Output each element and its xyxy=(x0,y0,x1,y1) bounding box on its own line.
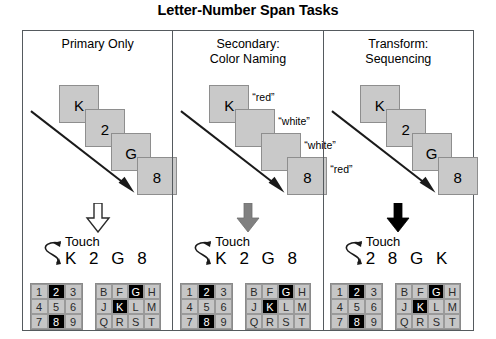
key-f[interactable]: F xyxy=(262,284,278,299)
key-2[interactable]: 2 xyxy=(348,284,365,299)
touch-label: Touch xyxy=(366,234,401,249)
key-1[interactable]: 1 xyxy=(31,284,48,299)
task-panel-1: Primary OnlyK2G8TouchK 2 G 8123456789BFG… xyxy=(23,31,172,330)
key-m[interactable]: M xyxy=(294,299,310,314)
key-6[interactable]: 6 xyxy=(65,299,82,314)
number-keypad[interactable]: 123456789 xyxy=(30,283,83,330)
key-b[interactable]: B xyxy=(396,284,412,299)
key-4[interactable]: 4 xyxy=(31,299,48,314)
letter-keypad[interactable]: BFGHJKLMQRST xyxy=(245,283,311,330)
panel-title: Primary Only xyxy=(23,37,172,52)
key-7[interactable]: 7 xyxy=(181,314,198,329)
stimulus-card-cascade: K2G8 xyxy=(23,83,172,198)
key-q[interactable]: Q xyxy=(246,314,262,329)
key-5[interactable]: 5 xyxy=(348,299,365,314)
stimulus-card: 8 xyxy=(137,157,177,195)
key-3[interactable]: 3 xyxy=(215,284,232,299)
key-3[interactable]: 3 xyxy=(365,284,382,299)
key-g[interactable]: G xyxy=(278,284,294,299)
key-1[interactable]: 1 xyxy=(181,284,198,299)
down-arrow-gray xyxy=(235,203,261,233)
touch-response-block: TouchK 2 G 8 xyxy=(173,233,322,283)
touch-sequence: K 2 G 8 xyxy=(215,249,301,269)
key-7[interactable]: 7 xyxy=(331,314,348,329)
key-g[interactable]: G xyxy=(428,284,444,299)
touch-sequence: 2 8 G K xyxy=(366,249,452,269)
key-9[interactable]: 9 xyxy=(65,314,82,329)
key-l[interactable]: L xyxy=(428,299,444,314)
key-2[interactable]: 2 xyxy=(198,284,215,299)
key-t[interactable]: T xyxy=(144,314,160,329)
key-k[interactable]: K xyxy=(262,299,278,314)
key-2[interactable]: 2 xyxy=(48,284,65,299)
down-arrow-black xyxy=(385,203,411,233)
key-r[interactable]: R xyxy=(262,314,278,329)
panel-title: Secondary: Color Naming xyxy=(173,37,322,66)
key-g[interactable]: G xyxy=(128,284,144,299)
key-t[interactable]: T xyxy=(294,314,310,329)
key-5[interactable]: 5 xyxy=(198,299,215,314)
page-title: Letter-Number Span Tasks xyxy=(0,2,496,18)
response-keypads: 123456789BFGHJKLMQRST xyxy=(330,283,466,330)
touch-label: Touch xyxy=(65,234,100,249)
stimulus-card-cascade: K“red”“white”“white”8“red” xyxy=(173,83,322,198)
key-s[interactable]: S xyxy=(128,314,144,329)
key-l[interactable]: L xyxy=(278,299,294,314)
number-keypad[interactable]: 123456789 xyxy=(330,283,383,330)
key-m[interactable]: M xyxy=(444,299,460,314)
key-8[interactable]: 8 xyxy=(48,314,65,329)
letter-keypad[interactable]: BFGHJKLMQRST xyxy=(395,283,461,330)
key-f[interactable]: F xyxy=(112,284,128,299)
key-m[interactable]: M xyxy=(144,299,160,314)
swipe-curve-icon xyxy=(41,239,63,267)
letter-keypad[interactable]: BFGHJKLMQRST xyxy=(95,283,161,330)
key-s[interactable]: S xyxy=(278,314,294,329)
key-t[interactable]: T xyxy=(444,314,460,329)
spoken-color-label: “red” xyxy=(252,91,274,103)
task-panel-2: Secondary: Color NamingK“red”“white”“whi… xyxy=(172,31,322,330)
key-6[interactable]: 6 xyxy=(215,299,232,314)
touch-label: Touch xyxy=(215,234,250,249)
key-q[interactable]: Q xyxy=(96,314,112,329)
key-q[interactable]: Q xyxy=(396,314,412,329)
spoken-color-label: “white” xyxy=(278,115,310,127)
key-s[interactable]: S xyxy=(428,314,444,329)
key-5[interactable]: 5 xyxy=(48,299,65,314)
number-keypad[interactable]: 123456789 xyxy=(180,283,233,330)
swipe-curve-icon xyxy=(191,239,213,267)
key-4[interactable]: 4 xyxy=(181,299,198,314)
touch-response-block: TouchK 2 G 8 xyxy=(23,233,172,283)
stimulus-card-cascade: K2G8 xyxy=(324,83,473,198)
key-6[interactable]: 6 xyxy=(365,299,382,314)
panel-title: Transform: Sequencing xyxy=(324,37,473,66)
key-9[interactable]: 9 xyxy=(365,314,382,329)
key-8[interactable]: 8 xyxy=(348,314,365,329)
key-h[interactable]: H xyxy=(294,284,310,299)
key-j[interactable]: J xyxy=(246,299,262,314)
key-j[interactable]: J xyxy=(396,299,412,314)
key-k[interactable]: K xyxy=(112,299,128,314)
key-r[interactable]: R xyxy=(112,314,128,329)
swipe-curve-icon xyxy=(342,239,364,267)
key-b[interactable]: B xyxy=(246,284,262,299)
key-9[interactable]: 9 xyxy=(215,314,232,329)
key-3[interactable]: 3 xyxy=(65,284,82,299)
touch-response-block: Touch2 8 G K xyxy=(324,233,473,283)
key-l[interactable]: L xyxy=(128,299,144,314)
key-7[interactable]: 7 xyxy=(31,314,48,329)
task-panel-3: Transform: SequencingK2G8Touch2 8 G K123… xyxy=(323,31,473,330)
key-j[interactable]: J xyxy=(96,299,112,314)
key-h[interactable]: H xyxy=(144,284,160,299)
panels-container: Primary OnlyK2G8TouchK 2 G 8123456789BFG… xyxy=(22,30,474,331)
key-f[interactable]: F xyxy=(412,284,428,299)
stimulus-card: 8 xyxy=(287,157,327,195)
key-4[interactable]: 4 xyxy=(331,299,348,314)
key-8[interactable]: 8 xyxy=(198,314,215,329)
down-arrow-outline xyxy=(85,203,111,233)
key-r[interactable]: R xyxy=(412,314,428,329)
key-h[interactable]: H xyxy=(444,284,460,299)
key-b[interactable]: B xyxy=(96,284,112,299)
key-k[interactable]: K xyxy=(412,299,428,314)
key-1[interactable]: 1 xyxy=(331,284,348,299)
response-keypads: 123456789BFGHJKLMQRST xyxy=(180,283,316,330)
